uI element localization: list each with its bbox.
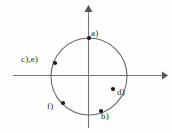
point-dot-d bbox=[111, 87, 115, 91]
x-axis-arrowhead bbox=[162, 72, 168, 80]
point-label-f: f) bbox=[47, 102, 53, 111]
point-label-d: d) bbox=[117, 88, 125, 97]
unit-circle-diagram bbox=[0, 0, 172, 133]
point-label-a: a) bbox=[91, 29, 98, 38]
y-axis-arrowhead bbox=[85, 5, 93, 12]
point-label-ce: c),e) bbox=[21, 55, 38, 64]
unit-circle-figure: a) b) c),e) d) f) bbox=[0, 0, 172, 133]
point-dot-ce bbox=[53, 61, 57, 65]
point-dot-f bbox=[61, 101, 65, 105]
point-label-b: b) bbox=[101, 112, 109, 121]
